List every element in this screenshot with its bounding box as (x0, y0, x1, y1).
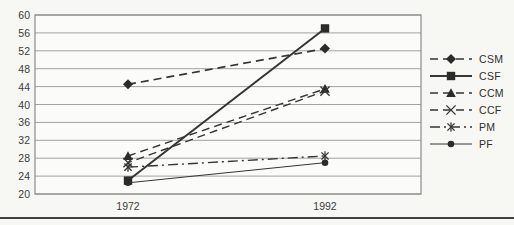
legend-item-csf: CSF (429, 70, 504, 82)
y-tick-label-28: 28 (0, 152, 30, 164)
y-tick-label-24: 24 (0, 170, 30, 182)
circle-marker (322, 159, 329, 166)
legend-item-csm: CSM (429, 53, 504, 65)
legend-label-pf: PF (479, 138, 493, 150)
diamond-marker (446, 54, 456, 64)
legend-swatch-pf (429, 138, 473, 150)
y-tick-label-48: 48 (0, 63, 30, 75)
y-tick-label-36: 36 (0, 116, 30, 128)
circle-marker (125, 180, 132, 187)
y-tick-label-60: 60 (0, 9, 30, 21)
line-chart: 2024283236404448525660 19721992 CSMCSFCC… (0, 0, 514, 225)
legend-label-csm: CSM (479, 53, 503, 65)
legend-label-ccf: CCF (479, 104, 501, 116)
y-tick-label-52: 52 (0, 45, 30, 57)
legend-label-ccm: CCM (479, 87, 504, 99)
legend-item-ccm: CCM (429, 87, 504, 99)
y-tick-label-44: 44 (0, 81, 30, 93)
square-marker (321, 24, 329, 32)
y-tick-label-20: 20 (0, 188, 30, 200)
bottom-rule (0, 217, 514, 219)
y-tick-label-32: 32 (0, 134, 30, 146)
legend-label-pm: PM (479, 121, 495, 133)
legend-swatch-ccm (429, 87, 473, 99)
square-marker (447, 72, 455, 80)
circle-marker (448, 141, 455, 148)
y-tick-label-56: 56 (0, 27, 30, 39)
page: 2024283236404448525660 19721992 CSMCSFCC… (0, 0, 514, 225)
legend-item-pf: PF (429, 138, 504, 150)
legend-swatch-pm (429, 121, 473, 133)
legend-swatch-csm (429, 53, 473, 65)
legend-swatch-csf (429, 70, 473, 82)
legend-swatch-ccf (429, 104, 473, 116)
legend-item-ccf: CCF (429, 104, 504, 116)
legend-item-pm: PM (429, 121, 504, 133)
x-tick-label-1972: 1972 (100, 200, 156, 212)
legend: CSMCSFCCMCCFPMPF (429, 53, 504, 150)
legend-label-csf: CSF (479, 70, 501, 82)
y-tick-label-40: 40 (0, 99, 30, 111)
x-tick-label-1992: 1992 (297, 200, 353, 212)
